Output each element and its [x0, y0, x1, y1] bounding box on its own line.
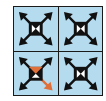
move-arrows-icon-highlighted: [14, 52, 58, 96]
move-arrows-icon: [59, 52, 103, 96]
cell-bottom-right[interactable]: [59, 52, 103, 96]
move-arrows-icon: [14, 7, 58, 51]
cell-bottom-left[interactable]: [14, 52, 58, 96]
icon-grid: [13, 6, 103, 96]
cell-top-right[interactable]: [59, 7, 103, 51]
move-arrows-icon: [59, 7, 103, 51]
cell-top-left[interactable]: [14, 7, 58, 51]
